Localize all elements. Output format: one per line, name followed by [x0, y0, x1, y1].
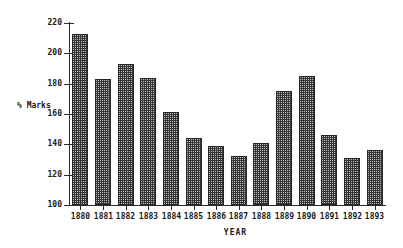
y-tick-mark	[64, 205, 74, 206]
x-tick-label: 1883	[137, 212, 160, 221]
bar	[118, 64, 134, 205]
x-tick-label: 1892	[341, 212, 364, 221]
x-tick-label: 1890	[295, 212, 318, 221]
y-tick-label: 140	[36, 140, 62, 148]
x-tick-label: 1881	[92, 212, 115, 221]
x-tick-mark	[80, 201, 81, 210]
y-tick-label-text: 140	[36, 140, 62, 148]
x-tick-label: 1885	[182, 212, 205, 221]
x-tick-label: 1880	[69, 212, 92, 221]
y-tick-label: 200	[36, 49, 62, 57]
x-tick-label: 1886	[205, 212, 228, 221]
x-tick-mark	[329, 201, 330, 210]
x-tick-mark	[194, 201, 195, 210]
x-tick-mark	[239, 201, 240, 210]
y-axis-title: % Marks	[17, 101, 51, 110]
y-tick-label-text: 160	[36, 110, 62, 118]
bar	[253, 143, 269, 205]
y-tick-label-text: 220	[36, 19, 62, 27]
y-tick-label: 120	[36, 171, 62, 179]
bar	[208, 146, 224, 205]
y-tick-label: 100	[36, 201, 62, 209]
y-tick-label-text: 120	[36, 171, 62, 179]
x-axis-title: YEAR	[34, 228, 403, 237]
x-tick-label: 1882	[114, 212, 137, 221]
x-tick-mark	[103, 201, 104, 210]
bar	[276, 91, 292, 205]
bar-chart: % Marks 100120140160180200220 1880188118…	[0, 0, 403, 248]
x-tick-mark	[148, 201, 149, 210]
x-tick-label: 1887	[227, 212, 250, 221]
x-tick-mark	[126, 201, 127, 210]
bar	[95, 79, 111, 205]
x-tick-label: 1884	[160, 212, 183, 221]
x-axis-line	[69, 205, 386, 206]
x-tick-mark	[261, 201, 262, 210]
bar	[321, 135, 337, 205]
y-tick-label-text: 180	[36, 80, 62, 88]
x-tick-mark	[375, 201, 376, 210]
x-tick-label: 1893	[363, 212, 386, 221]
bar	[299, 76, 315, 205]
bar	[186, 138, 202, 205]
y-tick-label-text: 200	[36, 49, 62, 57]
x-tick-mark	[216, 201, 217, 210]
x-tick-label: 1888	[250, 212, 273, 221]
y-tick-label-text: 100	[36, 201, 62, 209]
bar	[344, 158, 360, 205]
x-tick-label: 1889	[273, 212, 296, 221]
y-tick-label: 160	[36, 110, 62, 118]
bar	[367, 150, 383, 205]
bar	[231, 156, 247, 205]
x-tick-label: 1891	[318, 212, 341, 221]
bar	[140, 78, 156, 205]
y-tick-mark	[64, 23, 74, 24]
bar	[163, 112, 179, 205]
bar	[72, 34, 88, 205]
x-tick-mark	[352, 201, 353, 210]
x-tick-mark	[171, 201, 172, 210]
y-tick-label: 180	[36, 80, 62, 88]
x-tick-mark	[307, 201, 308, 210]
x-tick-mark	[284, 201, 285, 210]
y-tick-label: 220	[36, 19, 62, 27]
